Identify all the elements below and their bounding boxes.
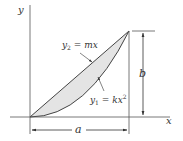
label-y1: y1 = kx2 <box>89 93 127 106</box>
dimension-b-label: b <box>139 67 146 80</box>
area-between-curves-diagram: y x b a y2 = mx y1 = kx2 <box>0 0 183 141</box>
label-y2: y2 = mx <box>61 40 98 51</box>
y-axis-label: y <box>17 4 24 15</box>
dimension-a-label: a <box>75 123 82 136</box>
leader-y1 <box>98 77 104 91</box>
x-axis-label: x <box>166 115 172 126</box>
leader-y2 <box>80 53 92 62</box>
